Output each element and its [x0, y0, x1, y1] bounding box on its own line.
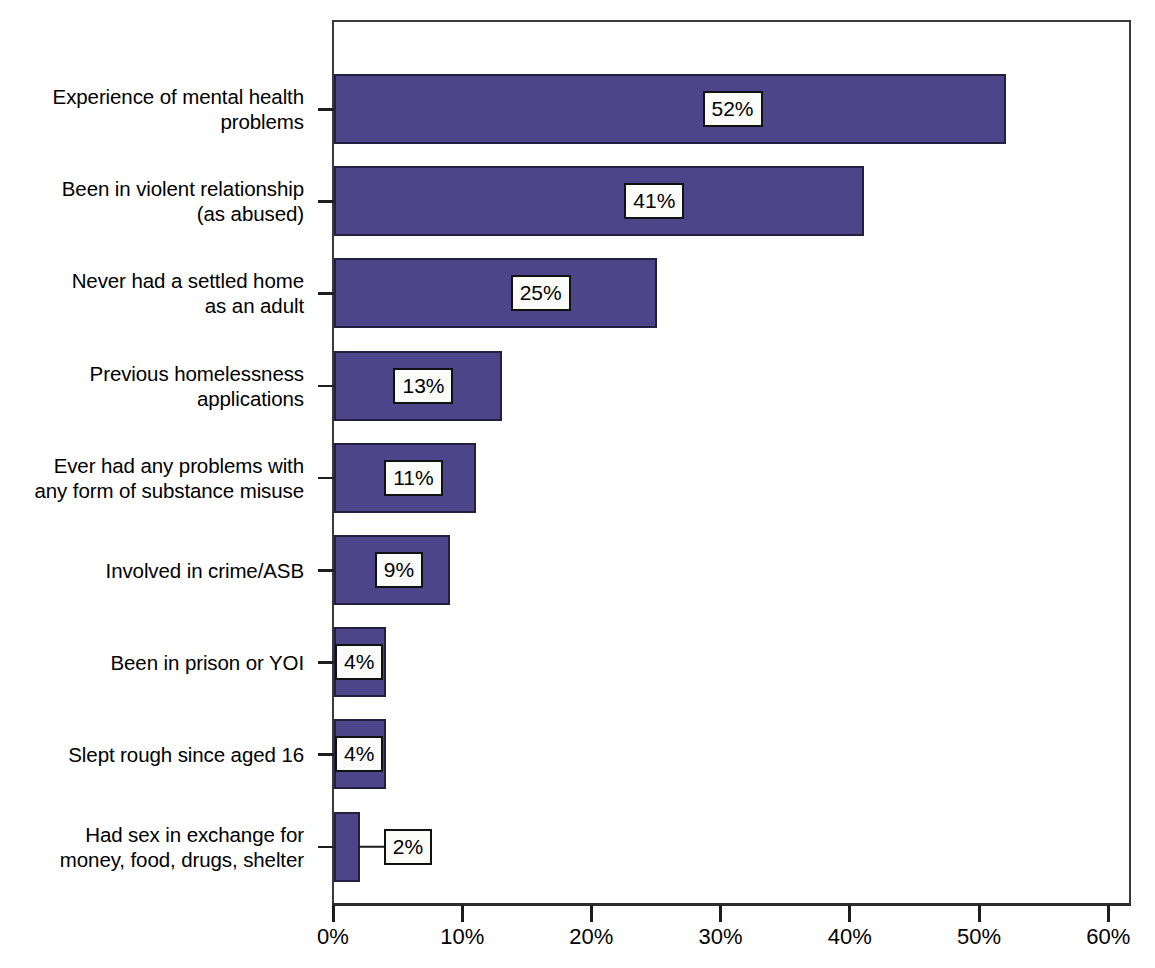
- bar-value-label: 52%: [703, 91, 763, 127]
- x-axis-tick-label: 30%: [699, 926, 743, 948]
- x-axis-tick-label: 10%: [440, 926, 484, 948]
- y-axis-tick: [318, 661, 334, 664]
- x-axis-tick: [461, 905, 464, 922]
- category-label: Never had a settled home as an adult: [72, 268, 304, 318]
- x-axis-tick: [332, 905, 335, 922]
- bar-value-label: 4%: [335, 736, 383, 772]
- y-axis-tick: [318, 477, 334, 480]
- category-label: Been in prison or YOI: [110, 650, 304, 675]
- value-leader-line: [359, 845, 384, 848]
- bar: [334, 74, 1006, 144]
- x-axis-tick-label: 40%: [828, 926, 872, 948]
- bar-value-label: 11%: [384, 460, 442, 496]
- category-label: Been in violent relationship (as abused): [62, 176, 304, 226]
- category-label: Involved in crime/ASB: [106, 558, 304, 583]
- x-axis-tick: [1107, 905, 1110, 922]
- x-axis-line: [332, 903, 1131, 906]
- category-label: Had sex in exchange for money, food, dru…: [60, 822, 304, 872]
- bar-value-label: 41%: [624, 183, 684, 219]
- y-axis-tick: [318, 108, 334, 111]
- bar: [334, 258, 657, 328]
- category-label: Experience of mental health problems: [53, 84, 304, 134]
- bar-value-label: 2%: [384, 829, 432, 865]
- bar: [334, 166, 864, 236]
- x-axis-tick-label: 20%: [569, 926, 613, 948]
- category-label: Previous homelessness applications: [90, 361, 304, 411]
- bar-value-label: 13%: [393, 368, 453, 404]
- y-axis-tick: [318, 200, 334, 203]
- category-label: Ever had any problems with any form of s…: [34, 453, 304, 503]
- y-axis-tick: [318, 292, 334, 295]
- x-axis-tick: [719, 905, 722, 922]
- x-axis-tick: [978, 905, 981, 922]
- y-axis-tick: [318, 753, 334, 756]
- x-axis-tick: [590, 905, 593, 922]
- x-axis-tick-label: 50%: [957, 926, 1001, 948]
- x-axis-tick: [848, 905, 851, 922]
- bar-value-label: 4%: [335, 644, 383, 680]
- bar-value-label: 25%: [511, 275, 571, 311]
- y-axis-tick: [318, 385, 334, 388]
- category-label: Slept rough since aged 16: [68, 742, 304, 767]
- bar: [334, 812, 360, 882]
- x-axis-tick-label: 0%: [317, 926, 349, 948]
- y-axis-tick: [318, 846, 334, 849]
- x-axis-tick-label: 60%: [1086, 926, 1130, 948]
- bar-value-label: 9%: [375, 552, 423, 588]
- bar-chart: Experience of mental health problemsBeen…: [0, 0, 1155, 968]
- y-axis-tick: [318, 569, 334, 572]
